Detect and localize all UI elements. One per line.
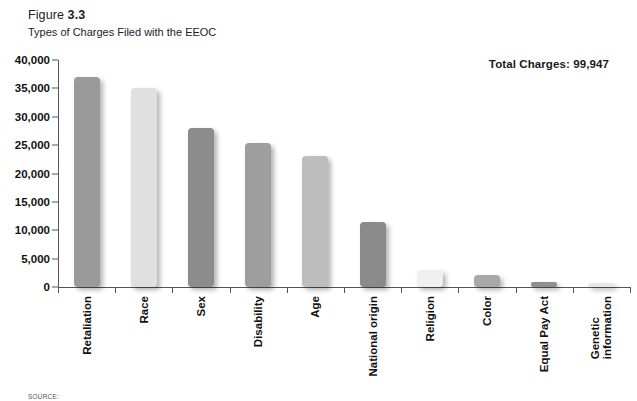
x-axis-tick-mark [401, 287, 402, 293]
y-axis-tick-label: 20,000 [2, 168, 58, 180]
x-axis-tick-mark [458, 287, 459, 293]
bar [74, 77, 100, 287]
y-axis-tick-label: 35,000 [2, 82, 58, 94]
bar [131, 88, 157, 287]
x-axis-label-line: Disability [252, 296, 264, 347]
x-axis-label-line: Race [138, 296, 150, 324]
x-axis-tick-mark [58, 287, 59, 293]
x-axis-label-line: Retaliation [81, 296, 93, 355]
x-axis-label-line: information [601, 296, 613, 359]
x-axis-label-line: Color [481, 296, 493, 326]
bar [531, 282, 557, 287]
x-axis-label: Race [138, 296, 150, 324]
x-axis-tick-mark [516, 287, 517, 293]
bar [474, 275, 500, 287]
x-axis-label-line: Equal Pay Act [538, 296, 550, 372]
x-axis-label: Disability [252, 296, 264, 347]
figure-number: Figure 3.3 [28, 8, 448, 23]
x-axis-label-line: Age [309, 296, 321, 318]
x-axis-tick-mark [172, 287, 173, 293]
x-axis-label: Equal Pay Act [538, 296, 550, 372]
y-axis-tick-label: 30,000 [2, 111, 58, 123]
x-axis-label: Sex [195, 296, 207, 316]
x-axis-tick-mark [573, 287, 574, 293]
bar [188, 128, 214, 287]
x-axis-tick-mark [630, 287, 631, 293]
x-axis-label-line: Religion [424, 296, 436, 341]
x-axis-tick-mark [287, 287, 288, 293]
x-axis-label: Religion [424, 296, 436, 341]
x-axis-labels: RetaliationRaceSexDisabilityAgeNational … [58, 296, 630, 392]
y-axis-tick-label: 40,000 [2, 54, 58, 66]
x-axis-label: Geneticinformation [589, 296, 613, 359]
x-axis-label-line: Genetic [589, 296, 601, 359]
x-axis-label: Color [481, 296, 493, 326]
figure-header: Figure 3.3 Types of Charges Filed with t… [28, 8, 448, 40]
x-axis-tick-mark [230, 287, 231, 293]
bar-series [58, 60, 630, 287]
figure-subtitle: Types of Charges Filed with the EEOC [28, 25, 448, 40]
y-axis-tick-label: 15,000 [2, 196, 58, 208]
y-axis-tick-label: 0 [2, 281, 58, 293]
x-axis-label: National origin [367, 296, 379, 377]
figure-number-value: 3.3 [68, 8, 86, 22]
bar [245, 143, 271, 287]
x-axis-label-line: Sex [195, 296, 207, 316]
bar [417, 270, 443, 287]
y-axis-tick-label: 10,000 [2, 224, 58, 236]
x-axis-tick-mark [344, 287, 345, 293]
x-axis-label-line: National origin [367, 296, 379, 377]
y-axis-tick-label: 25,000 [2, 139, 58, 151]
x-axis-label: Retaliation [81, 296, 93, 355]
x-axis-tick-mark [115, 287, 116, 293]
y-axis-tick-label: 5,000 [2, 253, 58, 265]
bar [360, 222, 386, 287]
figure-label: Figure [28, 8, 64, 22]
x-axis-label: Age [309, 296, 321, 318]
chart-plot-area: 05,00010,00015,00020,00025,00030,00035,0… [0, 56, 637, 296]
source-note: SOURCE: [28, 393, 59, 401]
bar [588, 283, 614, 287]
bar [302, 156, 328, 287]
